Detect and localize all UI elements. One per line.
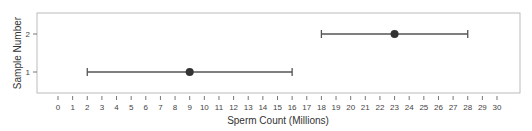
plot-frame bbox=[37, 13, 520, 93]
x-tick-label: 25 bbox=[419, 103, 428, 112]
x-tick-label: 10 bbox=[200, 103, 209, 112]
x-tick-label: 20 bbox=[346, 103, 355, 112]
x-tick-label: 14 bbox=[258, 103, 267, 112]
x-tick-label: 16 bbox=[288, 103, 297, 112]
y-axis-title: Sample Number bbox=[12, 16, 23, 89]
y-tick-label: 1 bbox=[26, 68, 31, 77]
errorbar-chart: 12 0123456789101112131415161718192021222… bbox=[0, 0, 532, 131]
x-tick-label: 11 bbox=[215, 103, 224, 112]
y-axis: 12 bbox=[26, 30, 37, 77]
y-tick-label: 2 bbox=[26, 30, 31, 39]
x-tick-label: 22 bbox=[375, 103, 384, 112]
x-tick-label: 30 bbox=[493, 103, 502, 112]
point-estimate-marker bbox=[186, 68, 194, 76]
x-tick-label: 29 bbox=[478, 103, 487, 112]
x-tick-label: 9 bbox=[187, 103, 192, 112]
x-tick-label: 28 bbox=[463, 103, 472, 112]
x-tick-label: 7 bbox=[158, 103, 163, 112]
x-tick-label: 15 bbox=[273, 103, 282, 112]
x-tick-label: 24 bbox=[405, 103, 414, 112]
x-tick-label: 19 bbox=[332, 103, 341, 112]
x-tick-label: 13 bbox=[244, 103, 253, 112]
x-tick-label: 21 bbox=[361, 103, 370, 112]
x-tick-label: 0 bbox=[56, 103, 61, 112]
x-tick-label: 2 bbox=[85, 103, 90, 112]
x-tick-label: 27 bbox=[449, 103, 458, 112]
x-tick-label: 4 bbox=[114, 103, 119, 112]
x-tick-label: 8 bbox=[173, 103, 178, 112]
x-tick-label: 1 bbox=[70, 103, 75, 112]
x-tick-label: 23 bbox=[390, 103, 399, 112]
x-tick-label: 12 bbox=[229, 103, 238, 112]
point-estimate-marker bbox=[391, 30, 399, 38]
x-tick-label: 6 bbox=[144, 103, 149, 112]
x-axis-title: Sperm Count (Millions) bbox=[227, 115, 329, 126]
x-tick-label: 5 bbox=[129, 103, 134, 112]
x-tick-label: 18 bbox=[317, 103, 326, 112]
x-tick-label: 3 bbox=[100, 103, 105, 112]
x-axis: 0123456789101112131415161718192021222324… bbox=[56, 96, 502, 112]
x-tick-label: 26 bbox=[434, 103, 443, 112]
x-tick-label: 17 bbox=[302, 103, 311, 112]
